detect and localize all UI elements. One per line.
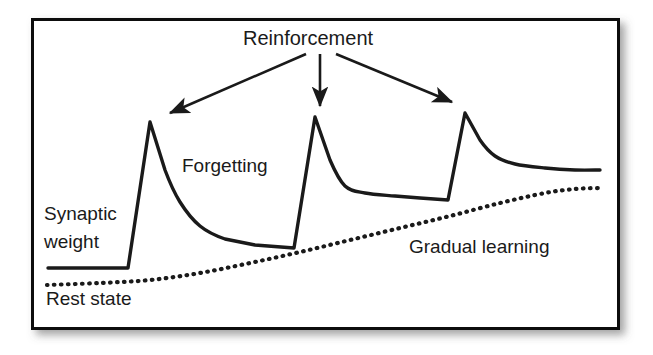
label-forgetting: Forgetting [182,155,268,176]
label-reinforcement: Reinforcement [243,28,373,49]
label-synaptic-weight-line2: weight [44,231,99,252]
label-rest-state: Rest state [46,288,132,309]
label-gradual-learning: Gradual learning [409,236,549,257]
label-synaptic-weight-line1: Synaptic [44,203,117,224]
figure-container: Reinforcement Forgetting Synaptic weight… [0,0,653,355]
figure-frame [33,20,619,329]
